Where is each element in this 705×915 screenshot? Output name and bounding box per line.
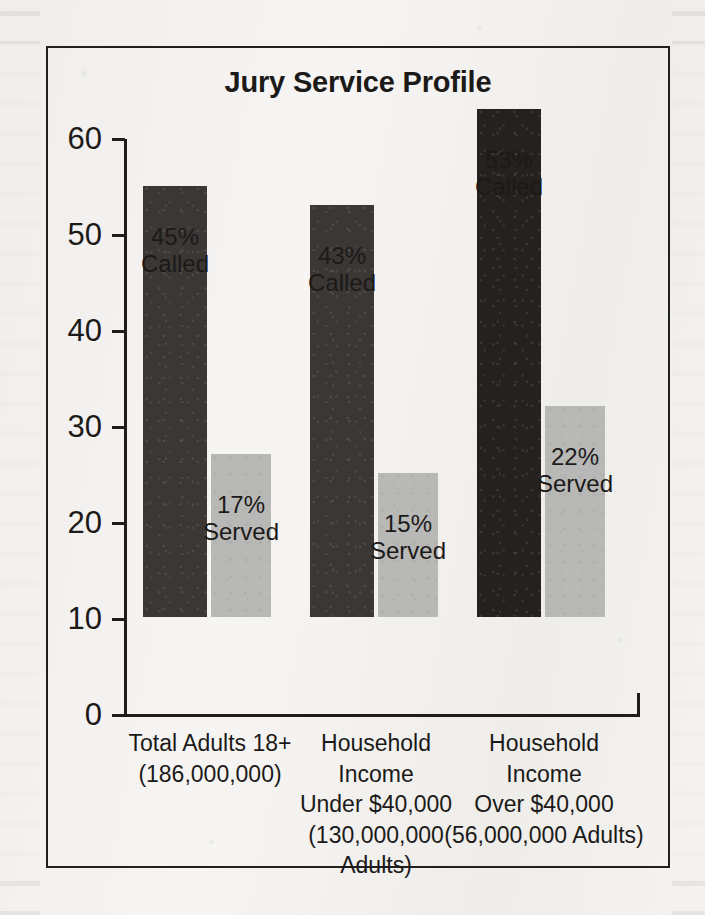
y-tick-mark-30 xyxy=(112,426,125,429)
y-tick-label-40: 40 xyxy=(32,315,102,346)
bar-label-income-over-40k-served: 22% Served xyxy=(525,444,625,498)
bar-income-over-40k-served xyxy=(545,406,605,617)
y-tick-label-60: 60 xyxy=(32,123,102,154)
y-tick-label-10: 10 xyxy=(32,603,102,634)
bar-label-income-under-40k-served: 15% Served xyxy=(358,511,458,565)
y-tick-mark-40 xyxy=(112,330,125,333)
y-tick-mark-20 xyxy=(112,522,125,525)
y-tick-label-30: 30 xyxy=(32,411,102,442)
x-axis-line xyxy=(124,714,640,717)
bar-label-income-over-40k-called: 53% Called xyxy=(457,147,561,201)
bar-label-total-adults-served: 17% Served xyxy=(191,492,291,546)
y-tick-mark-60 xyxy=(112,138,125,141)
y-tick-label-0: 0 xyxy=(32,699,102,730)
x-axis-end-tick xyxy=(637,693,640,717)
category-label-income-over-40k: Household Income Over $40,000 (56,000,00… xyxy=(444,728,644,850)
y-tick-label-20: 20 xyxy=(32,507,102,538)
y-tick-label-50: 50 xyxy=(32,219,102,250)
bar-label-total-adults-called: 45% Called xyxy=(123,224,227,278)
y-tick-mark-0 xyxy=(112,714,125,717)
bar-label-income-under-40k-called: 43% Called xyxy=(290,243,394,297)
chart-plot-area: 60 50 40 30 20 10 0 45% Called 17% Serve… xyxy=(48,48,668,866)
chart-figure-frame: Jury Service Profile 60 50 40 30 20 10 0… xyxy=(46,46,670,868)
y-tick-mark-10 xyxy=(112,618,125,621)
